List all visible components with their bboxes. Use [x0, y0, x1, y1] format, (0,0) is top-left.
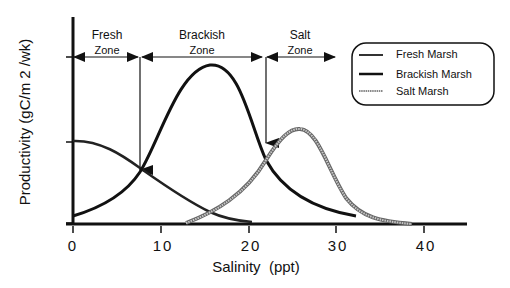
zone-annotations: Fresh Zone Brackish Zone Salt Zone [74, 28, 335, 170]
legend: Fresh Marsh Brackish Marsh Salt Marsh [352, 43, 494, 105]
brackish-zone-label-line1: Brackish [179, 28, 225, 42]
x-tick-label: 40 [416, 237, 437, 254]
x-tick-label: 30 [328, 237, 349, 254]
salt-zone-label-line2: Zone [287, 44, 312, 56]
salt-zone-label-line1: Salt [290, 28, 311, 42]
x-axis-title: Salinity (ppt) [212, 258, 300, 275]
legend-label: Fresh Marsh [396, 48, 458, 60]
x-tick-label: 0 [68, 237, 78, 254]
brackish-zone-label-line2: Zone [189, 44, 214, 56]
x-axis: 0 10 20 30 40 Salinity (ppt) [66, 224, 467, 275]
fresh-zone-label-line2: Zone [94, 44, 119, 56]
y-axis: Productivity (gC/m 2 /wk) [16, 17, 73, 224]
legend-label: Salt Marsh [396, 85, 449, 97]
x-tick-label: 10 [153, 237, 174, 254]
legend-label: Brackish Marsh [396, 68, 472, 80]
fresh-marsh-curve [73, 141, 252, 222]
productivity-vs-salinity-chart: Productivity (gC/m 2 /wk) 0 10 20 30 40 … [0, 0, 510, 288]
fresh-zone-label-line1: Fresh [92, 28, 123, 42]
y-axis-title: Productivity (gC/m 2 /wk) [16, 39, 33, 206]
x-tick-label: 20 [241, 237, 262, 254]
salt-marsh-curve [186, 129, 412, 224]
salt-marsh-curve-outline [186, 129, 412, 224]
